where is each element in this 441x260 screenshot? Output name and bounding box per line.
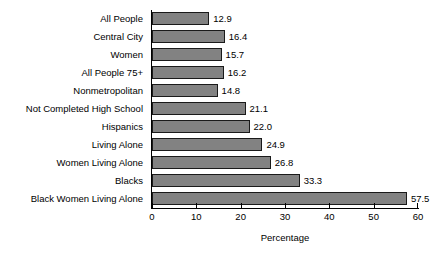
category-label: Living Alone <box>0 136 148 154</box>
bar-value-label: 33.3 <box>300 174 323 187</box>
bar-chart: All PeopleCentral CityWomenAll People 75… <box>0 0 441 260</box>
bar <box>152 30 225 43</box>
bar <box>152 174 300 187</box>
x-axis-tick <box>329 203 330 209</box>
bar-value-label: 22.0 <box>250 120 273 133</box>
bar-row: 22.0 <box>152 118 418 136</box>
bar-value-label: 24.9 <box>262 138 285 151</box>
x-axis-tick-label: 10 <box>181 211 211 222</box>
x-axis-tick-label: 30 <box>270 211 300 222</box>
x-axis-tick-label: 50 <box>359 211 389 222</box>
bar-value-label: 21.1 <box>246 102 269 115</box>
bar <box>152 66 224 79</box>
bar-series: 12.916.415.716.214.821.122.024.926.833.3… <box>152 10 418 208</box>
bar <box>152 120 250 133</box>
bar <box>152 102 246 115</box>
bar-row: 26.8 <box>152 154 418 172</box>
x-axis-title: Percentage <box>152 232 418 243</box>
x-axis-tick <box>196 203 197 209</box>
category-label: Women Living Alone <box>0 154 148 172</box>
x-axis-tick <box>374 203 375 209</box>
category-label: All People <box>0 10 148 28</box>
x-axis-tick-label: 60 <box>403 211 433 222</box>
category-axis-labels: All PeopleCentral CityWomenAll People 75… <box>0 10 148 208</box>
bar-value-label: 15.7 <box>222 48 245 61</box>
category-label: Not Completed High School <box>0 100 148 118</box>
plot-area: 12.916.415.716.214.821.122.024.926.833.3… <box>152 10 418 208</box>
bar-value-label: 26.8 <box>271 156 294 169</box>
x-axis-tick-label: 20 <box>226 211 256 222</box>
bar-row: 14.8 <box>152 82 418 100</box>
bar-value-label: 16.4 <box>225 30 248 43</box>
category-label: Central City <box>0 28 148 46</box>
x-axis-tick <box>241 203 242 209</box>
category-label: Nonmetropolitan <box>0 82 148 100</box>
category-label: Hispanics <box>0 118 148 136</box>
bar <box>152 12 209 25</box>
category-label: All People 75+ <box>0 64 148 82</box>
bar <box>152 48 222 61</box>
bar-row: 12.9 <box>152 10 418 28</box>
bar-value-label: 57.5 <box>407 192 430 205</box>
bar-row: 21.1 <box>152 100 418 118</box>
x-axis-tick-label: 0 <box>137 211 167 222</box>
bar-value-label: 16.2 <box>224 66 247 79</box>
bar-row: 16.2 <box>152 64 418 82</box>
bar-row: 33.3 <box>152 172 418 190</box>
category-label: Black Women Living Alone <box>0 190 148 208</box>
bar-row: 16.4 <box>152 28 418 46</box>
category-label: Women <box>0 46 148 64</box>
category-label: Blacks <box>0 172 148 190</box>
x-axis-tick <box>152 203 153 209</box>
bar-value-label: 14.8 <box>218 84 241 97</box>
bar-value-label: 12.9 <box>209 12 232 25</box>
bar <box>152 192 407 205</box>
bar-row: 15.7 <box>152 46 418 64</box>
bar <box>152 138 262 151</box>
bar-row: 24.9 <box>152 136 418 154</box>
x-axis-tick <box>417 203 418 209</box>
x-axis-tick <box>285 203 286 209</box>
bar <box>152 156 271 169</box>
x-axis-tick-label: 40 <box>314 211 344 222</box>
bar <box>152 84 218 97</box>
